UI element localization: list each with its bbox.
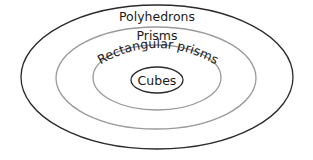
rectangular-prisms-label-curved: Rectangular prisms — [95, 36, 221, 67]
euler-diagram: Polyhedrons Prisms Rectangular prisms Cu… — [0, 0, 313, 160]
cubes-label: Cubes — [138, 73, 177, 88]
rectangular-prisms-label: Rectangular prisms — [95, 36, 221, 67]
polyhedrons-label: Polyhedrons — [119, 9, 195, 24]
diagram-canvas: Polyhedrons Prisms Rectangular prisms Cu… — [0, 0, 313, 160]
